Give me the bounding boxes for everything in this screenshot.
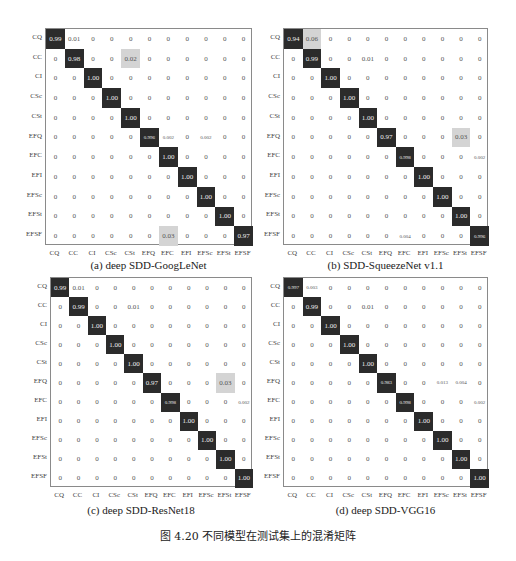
matrix-cell: 0 [284, 167, 303, 187]
matrix-cell: 0 [340, 393, 359, 412]
matrix-cell: 0 [84, 29, 103, 49]
matrix-cell: 0 [340, 226, 359, 246]
matrix-cell: 0 [106, 393, 124, 412]
matrix-cell: 0 [377, 226, 396, 246]
y-axis-label: CSt [13, 112, 42, 120]
matrix-cell: 0 [106, 469, 124, 488]
matrix-cell: 0 [452, 278, 471, 297]
matrix-cell: 0 [65, 108, 84, 128]
matrix-cell: 0 [303, 431, 322, 450]
matrix-cell: 0.97 [377, 128, 396, 148]
matrix-cell: 0 [161, 469, 179, 488]
matrix-cell: 0 [159, 108, 178, 128]
matrix-cell: 1.00 [159, 147, 178, 167]
matrix-cell: 0 [321, 373, 340, 392]
matrix-cell: 0 [414, 335, 433, 354]
y-axis-label: CQ [251, 33, 280, 41]
matrix-cell: 0 [198, 412, 216, 431]
matrix-cell: 0.01 [359, 297, 378, 316]
x-axis-label: CQ [283, 249, 302, 257]
matrix-cell: 0 [396, 167, 415, 187]
matrix-cell: 0 [215, 88, 234, 108]
matrix-cell: 0 [303, 167, 322, 187]
matrix-cell: 0 [178, 207, 197, 227]
x-axis-label: EFC [395, 491, 414, 499]
matrix-cell: 0 [359, 147, 378, 167]
x-axis-label: CQ [283, 491, 302, 499]
matrix-cell: 0 [433, 297, 452, 316]
matrix-cell: 0 [303, 147, 322, 167]
matrix-cell: 0 [452, 431, 471, 450]
x-axis-label: EFSc [432, 249, 451, 257]
matrix-cell: 0 [321, 450, 340, 469]
matrix-cell: 1.00 [321, 316, 340, 335]
x-axis-label: EFSc [196, 249, 215, 257]
y-axis-label: CSc [18, 339, 47, 347]
matrix-cell: 0 [321, 412, 340, 431]
matrix-cell: 0 [414, 147, 433, 167]
matrix-cell: 0 [69, 335, 87, 354]
matrix-cell: 0.01 [69, 278, 87, 297]
matrix-cell: 0 [452, 469, 471, 488]
matrix-cell: 0 [284, 335, 303, 354]
matrix-cell: 0 [161, 412, 179, 431]
matrix-cell: 0 [84, 147, 103, 167]
matrix-cell: 0.003 [303, 278, 322, 297]
matrix-cell: 0 [359, 469, 378, 488]
matrix-cell: 0 [46, 226, 65, 246]
matrix-cell: 0 [197, 226, 216, 246]
matrix-cell: 1.00 [102, 88, 121, 108]
matrix-cell: 0 [124, 335, 142, 354]
matrix-cell: 0 [452, 316, 471, 335]
matrix-cell: 0 [51, 316, 69, 335]
subplot-title: (c) deep SDD-ResNet18 [40, 504, 242, 516]
matrix-grid: 0.9970.00300000000000.99000.01000000001.… [283, 277, 488, 487]
matrix-cell: 0 [124, 469, 142, 488]
matrix-cell: 0 [414, 373, 433, 392]
matrix-cell: 0 [414, 297, 433, 316]
x-axis-label: CI [87, 491, 105, 499]
matrix-cell: 0.004 [452, 373, 471, 392]
matrix-cell: 0.06 [303, 29, 322, 49]
matrix-cell: 0 [470, 108, 489, 128]
matrix-cell: 0 [159, 167, 178, 187]
y-axis-label: EFQ [251, 377, 280, 385]
matrix-cell: 0.004 [396, 226, 415, 246]
matrix-cell: 0 [106, 278, 124, 297]
matrix-cell: 0 [178, 147, 197, 167]
matrix-cell: 0 [396, 49, 415, 69]
matrix-cell: 0 [377, 167, 396, 187]
matrix-cell: 0 [359, 29, 378, 49]
matrix-cell: 1.00 [178, 167, 197, 187]
matrix-cell: 0 [106, 373, 124, 392]
matrix-cell: 0 [414, 88, 433, 108]
y-axis-label: CSc [13, 92, 42, 100]
matrix-cell: 0 [65, 207, 84, 227]
matrix-cell: 0 [470, 431, 489, 450]
matrix-cell: 0 [284, 49, 303, 69]
matrix-cell: 0 [359, 167, 378, 187]
matrix-cell: 0 [303, 108, 322, 128]
matrix-cell: 0 [470, 278, 489, 297]
matrix-cell: 0 [303, 469, 322, 488]
matrix-cell: 0.997 [284, 278, 303, 297]
matrix-cell: 0 [84, 207, 103, 227]
matrix-cell: 1.00 [433, 431, 452, 450]
matrix-cell: 0 [340, 373, 359, 392]
matrix-cell: 1.00 [198, 431, 216, 450]
matrix-cell: 0 [124, 412, 142, 431]
matrix-cell: 0 [433, 29, 452, 49]
matrix-cell: 0 [197, 207, 216, 227]
y-axis-label: EFI [18, 415, 47, 423]
matrix-cell: 0 [159, 68, 178, 88]
matrix-cell: 0 [340, 469, 359, 488]
matrix-grid: 0.990.0100000000000.98000.02000000001.00… [45, 28, 252, 245]
matrix-cell: 0 [340, 450, 359, 469]
matrix-cell: 0 [321, 49, 340, 69]
matrix-cell: 0 [106, 297, 124, 316]
matrix-cell: 0 [321, 354, 340, 373]
matrix-cell: 0 [396, 412, 415, 431]
matrix-cell: 0 [124, 393, 142, 412]
matrix-cell: 0 [88, 335, 106, 354]
matrix-cell: 0 [377, 207, 396, 227]
